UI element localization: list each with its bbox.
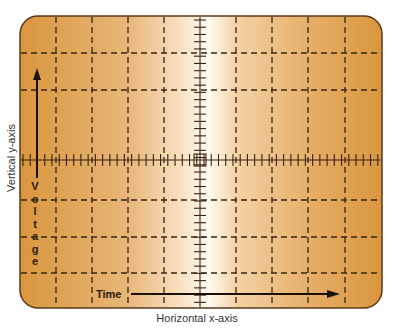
oscilloscope-screen (0, 0, 394, 330)
voltage-label: Voltage (28, 180, 42, 268)
vertical-axis-label: Vertical y-axis (5, 103, 17, 213)
horizontal-axis-label: Horizontal x-axis (0, 312, 394, 324)
time-label: Time (96, 288, 121, 300)
screen-frame (20, 16, 382, 308)
